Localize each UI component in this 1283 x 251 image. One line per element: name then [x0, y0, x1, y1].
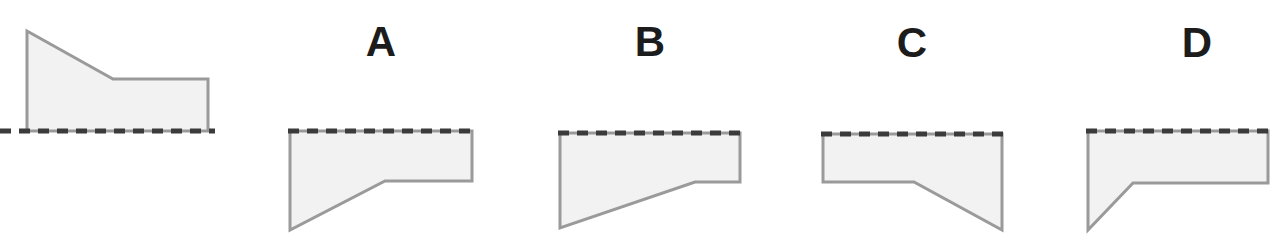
- option-label-c[interactable]: C: [897, 22, 927, 64]
- option-a-figure-group[interactable]: [288, 131, 474, 230]
- option-label-b[interactable]: B: [635, 21, 665, 63]
- option-b-figure-group[interactable]: [558, 133, 742, 228]
- question-canvas: A B C D: [0, 0, 1283, 251]
- option-c-figure-group[interactable]: [821, 134, 1004, 230]
- option-d-figure-group[interactable]: [1086, 131, 1270, 230]
- option-label-d[interactable]: D: [1182, 22, 1212, 64]
- option-b-shape[interactable]: [560, 133, 740, 228]
- reference-shape: [27, 31, 208, 131]
- option-label-a[interactable]: A: [366, 21, 396, 63]
- option-d-shape[interactable]: [1088, 131, 1268, 230]
- option-c-shape[interactable]: [823, 134, 1002, 230]
- reference-figure-group: [0, 31, 215, 131]
- option-a-shape[interactable]: [290, 131, 472, 230]
